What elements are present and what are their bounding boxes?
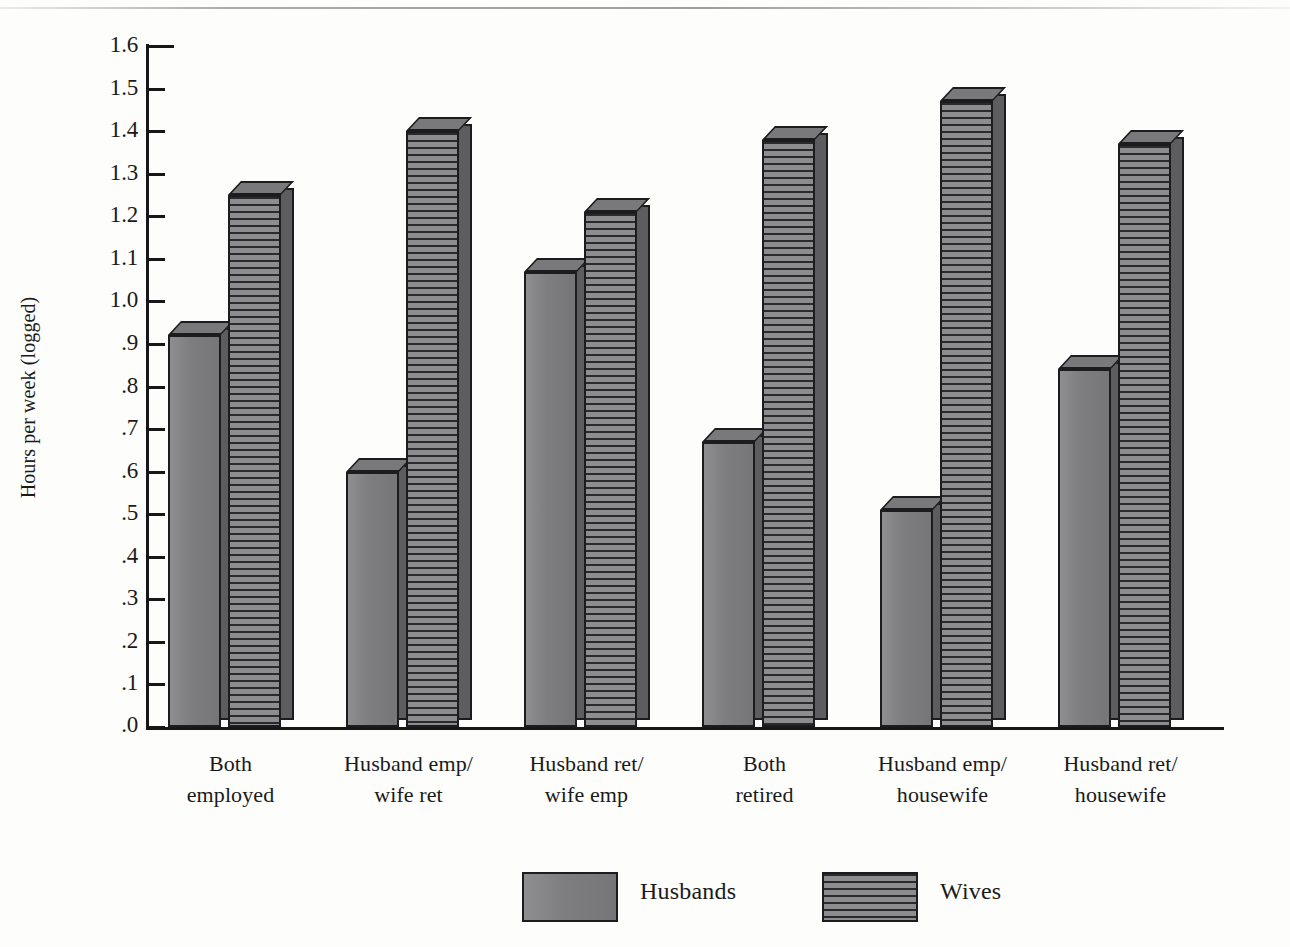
- y-axis-tick: [146, 343, 165, 346]
- x-axis-category-label: Husband ret/housewife: [1011, 748, 1231, 810]
- bar-husbands-6: [1058, 355, 1111, 727]
- bar-front-face: [940, 101, 993, 727]
- legend-label: Wives: [940, 878, 1001, 905]
- bar-front-face: [762, 140, 815, 727]
- legend-swatch-wives: [822, 872, 918, 922]
- bar-wives-2: [406, 117, 459, 727]
- y-axis-tick: [146, 683, 165, 686]
- y-axis-tick: [146, 300, 165, 303]
- bar-side-face: [637, 205, 650, 720]
- bar-wives-6: [1118, 130, 1171, 727]
- bar-wives-5: [940, 87, 993, 727]
- y-axis-tick: [146, 556, 165, 559]
- bar-front-face: [1118, 144, 1171, 727]
- bar-side-face: [815, 133, 828, 720]
- bar-chart-figure: Hours per week (logged) 1.61.51.41.31.21…: [0, 0, 1290, 947]
- bar-husbands-5: [880, 496, 933, 727]
- y-axis-tick: [146, 45, 174, 48]
- category-label-line2: housewife: [1011, 779, 1231, 810]
- chart-legend: HusbandsWives: [0, 866, 1290, 936]
- bar-front-face: [880, 510, 933, 727]
- y-axis-tick: [146, 598, 165, 601]
- y-axis-tick: [146, 471, 165, 474]
- bar-wives-4: [762, 126, 815, 727]
- bar-side-face: [281, 188, 294, 720]
- bar-husbands-1: [168, 321, 221, 727]
- bar-front-face: [524, 272, 577, 727]
- legend-label: Husbands: [640, 878, 736, 905]
- bar-husbands-4: [702, 428, 755, 727]
- y-axis-tick: [146, 641, 165, 644]
- bar-wives-3: [584, 198, 637, 727]
- bar-front-face: [228, 195, 281, 727]
- bar-front-face: [1058, 369, 1111, 727]
- category-label-line1: Husband ret/: [1011, 748, 1231, 779]
- y-axis-tick: [146, 88, 165, 91]
- bar-front-face: [584, 212, 637, 727]
- y-axis-tick: [146, 173, 165, 176]
- y-axis-tick: [146, 215, 165, 218]
- y-axis-tick: [146, 386, 165, 389]
- bar-front-face: [702, 442, 755, 727]
- bar-front-face: [346, 472, 399, 727]
- y-axis-tick: [146, 130, 165, 133]
- bar-side-face: [1171, 137, 1184, 720]
- bar-side-face: [993, 94, 1006, 720]
- y-axis-tick: [146, 513, 165, 516]
- y-axis-tick: [146, 258, 165, 261]
- bar-front-face: [168, 335, 221, 727]
- bar-husbands-2: [346, 458, 399, 727]
- bar-wives-1: [228, 181, 281, 727]
- y-axis-tick: [146, 428, 165, 431]
- y-axis-tick: [146, 726, 165, 729]
- bar-husbands-3: [524, 258, 577, 727]
- bar-front-face: [406, 131, 459, 727]
- plot-area: [0, 0, 1290, 760]
- legend-swatch-husbands: [522, 872, 618, 922]
- bar-side-face: [459, 124, 472, 720]
